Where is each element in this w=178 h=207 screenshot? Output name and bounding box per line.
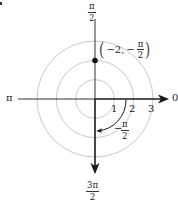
close-paren: ) xyxy=(145,40,150,59)
angle-label-3pi-over-2: 3π 2 xyxy=(86,181,99,201)
radial-label-2: 2 xyxy=(129,104,135,114)
open-paren: ( xyxy=(99,40,104,59)
arc-label-fraction: π 2 xyxy=(121,120,129,140)
angle-label-pi: π xyxy=(6,93,13,103)
angle-label-pi-over-2: π 2 xyxy=(88,2,96,22)
plotted-point xyxy=(92,58,98,64)
angle-label-zero: 0 xyxy=(172,93,178,103)
point-r-value: −2, xyxy=(106,44,124,55)
point-label: ( −2, − π 2 ) xyxy=(98,40,152,59)
radial-label-1: 1 xyxy=(111,104,117,114)
radial-label-3: 3 xyxy=(148,104,154,114)
point-theta-fraction: π 2 xyxy=(137,40,145,60)
point-theta-sign: − xyxy=(126,44,134,55)
